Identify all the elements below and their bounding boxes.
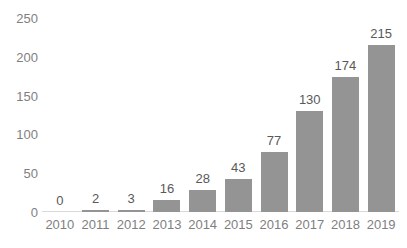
bar[interactable] [296, 111, 323, 212]
plot-area: 02316284377130174215 [42, 18, 399, 212]
y-axis-tick-label: 100 [4, 128, 38, 141]
y-axis-tick-label: 150 [4, 89, 38, 102]
bar[interactable] [368, 45, 395, 212]
bar[interactable] [261, 152, 288, 212]
bar[interactable] [189, 190, 216, 212]
bar-group: 77 [256, 18, 292, 212]
bar-value-label: 174 [328, 59, 364, 72]
bar[interactable] [153, 200, 180, 212]
bar-group: 43 [221, 18, 257, 212]
bar[interactable] [82, 210, 109, 212]
y-axis: 250200150100500 [0, 0, 38, 248]
bar-value-label: 130 [292, 93, 328, 106]
bar-value-label: 2 [78, 192, 114, 205]
bar-group: 130 [292, 18, 328, 212]
x-axis-tick-label: 2018 [328, 218, 364, 231]
x-axis-tick-label: 2014 [185, 218, 221, 231]
y-axis-tick-label: 0 [4, 206, 38, 219]
bar-group: 174 [328, 18, 364, 212]
x-axis-tick-label: 2017 [292, 218, 328, 231]
y-axis-tick-label: 200 [4, 50, 38, 63]
bar-chart: 250200150100500 02316284377130174215 201… [0, 0, 407, 248]
bar-value-label: 16 [149, 182, 185, 195]
bar-value-label: 0 [42, 194, 78, 207]
bar-value-label: 215 [363, 27, 399, 40]
bar-group: 28 [185, 18, 221, 212]
bar[interactable] [225, 179, 252, 212]
y-axis-tick-label: 250 [4, 12, 38, 25]
x-axis-tick-label: 2013 [149, 218, 185, 231]
x-axis-tick-label: 2011 [78, 218, 114, 231]
x-axis-tick-label: 2019 [363, 218, 399, 231]
bar-group: 16 [149, 18, 185, 212]
bar-group: 2 [78, 18, 114, 212]
bar[interactable] [332, 77, 359, 212]
bar-value-label: 77 [256, 134, 292, 147]
x-axis: 2010201120122013201420152016201720182019 [42, 218, 399, 242]
bar-value-label: 43 [221, 161, 257, 174]
bar-value-label: 28 [185, 172, 221, 185]
x-axis-tick-label: 2016 [256, 218, 292, 231]
bar[interactable] [118, 210, 145, 212]
bar-group: 0 [42, 18, 78, 212]
bar-group: 215 [363, 18, 399, 212]
bar-group: 3 [113, 18, 149, 212]
y-axis-tick-label: 50 [4, 167, 38, 180]
x-axis-tick-label: 2010 [42, 218, 78, 231]
x-axis-tick-label: 2012 [113, 218, 149, 231]
x-axis-tick-label: 2015 [221, 218, 257, 231]
bar-value-label: 3 [113, 192, 149, 205]
